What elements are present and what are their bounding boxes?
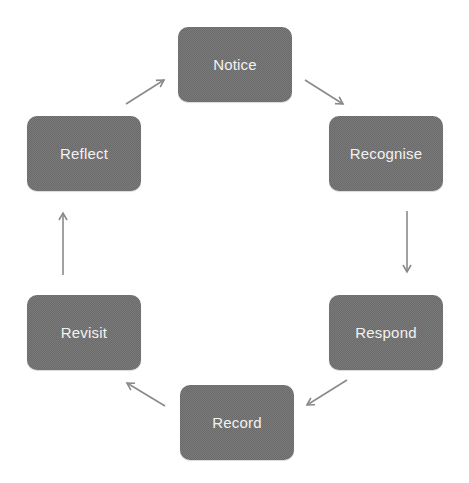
node-notice: Notice — [178, 27, 292, 102]
node-label: Respond — [355, 324, 416, 341]
node-record: Record — [180, 385, 294, 460]
node-recognise: Recognise — [329, 116, 443, 191]
node-label: Notice — [213, 56, 257, 73]
arrow-reflect-to-notice — [126, 80, 164, 104]
node-label: Recognise — [350, 145, 423, 162]
node-respond: Respond — [329, 295, 443, 370]
arrow-record-to-revisit — [127, 383, 165, 406]
node-reflect: Reflect — [27, 116, 141, 191]
node-label: Record — [212, 414, 262, 431]
node-label: Revisit — [61, 324, 107, 341]
node-revisit: Revisit — [27, 295, 141, 370]
arrow-respond-to-record — [307, 380, 347, 405]
arrow-notice-to-recognise — [305, 80, 343, 104]
node-label: Reflect — [60, 145, 108, 162]
